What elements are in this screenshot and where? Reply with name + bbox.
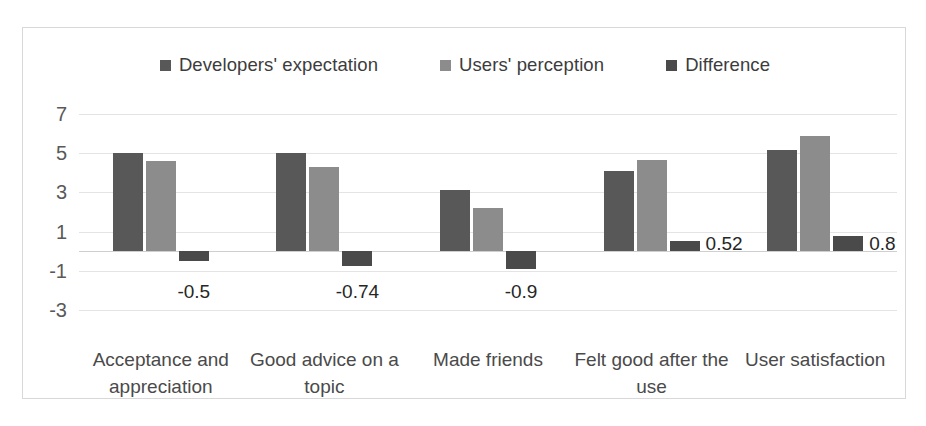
category-label-1: Good advice on a topic [243, 346, 407, 400]
legend-swatch-icon-users-perception [440, 60, 451, 71]
legend-entry-difference[interactable]: Difference [666, 54, 770, 76]
y-axis-tick-label: 7 [56, 103, 67, 126]
legend-label-developers-expectation: Developers' expectation [179, 54, 378, 76]
bar[interactable] [342, 251, 372, 266]
bar[interactable] [604, 171, 634, 251]
bar[interactable] [506, 251, 536, 269]
category-label-0: Acceptance and appreciation [79, 346, 243, 400]
difference-value-label: 0.8 [869, 233, 895, 255]
difference-value-label: 0.52 [706, 233, 743, 255]
category-label-3: Felt good after the use [570, 346, 734, 400]
category-label-4: User satisfaction [733, 346, 897, 400]
legend-swatch-icon-difference [666, 60, 677, 71]
y-axis-tick-label: 1 [56, 220, 67, 243]
bar[interactable] [179, 251, 209, 261]
y-axis-tick-label: -1 [49, 259, 67, 282]
y-axis-tick-label: 5 [56, 142, 67, 165]
bar[interactable] [833, 236, 863, 252]
bar[interactable] [113, 153, 143, 251]
y-axis-tick-label: -3 [49, 299, 67, 322]
bar[interactable] [146, 161, 176, 251]
legend-label-users-perception: Users' perception [459, 54, 604, 76]
gridline-7 [79, 114, 897, 115]
legend-swatch-icon-developers-expectation [160, 60, 171, 71]
gridline--1 [79, 271, 897, 272]
chart-screenshot: Developers' expectation Users' perceptio… [0, 0, 926, 426]
legend-entry-developers-expectation[interactable]: Developers' expectation [160, 54, 378, 76]
bar[interactable] [637, 160, 667, 251]
difference-value-label: -0.74 [336, 281, 379, 303]
category-label-2: Made friends [406, 346, 570, 400]
bar[interactable] [670, 241, 700, 251]
bar[interactable] [473, 208, 503, 251]
bar[interactable] [767, 150, 797, 251]
y-axis-tick-label: 3 [56, 181, 67, 204]
bar[interactable] [800, 136, 830, 252]
legend-entry-users-perception[interactable]: Users' perception [440, 54, 604, 76]
gridline--3 [79, 310, 897, 311]
bar[interactable] [440, 190, 470, 251]
difference-value-label: -0.5 [177, 281, 210, 303]
category-axis-labels: Acceptance and appreciation Good advice … [79, 346, 897, 400]
plot-area: 7531-1-3-0.5-0.74-0.90.520.8 [79, 114, 897, 310]
bar[interactable] [309, 167, 339, 251]
bar[interactable] [276, 153, 306, 251]
chart-legend: Developers' expectation Users' perceptio… [23, 54, 907, 76]
chart-frame: Developers' expectation Users' perceptio… [22, 27, 906, 399]
legend-label-difference: Difference [685, 54, 770, 76]
difference-value-label: -0.9 [505, 281, 538, 303]
